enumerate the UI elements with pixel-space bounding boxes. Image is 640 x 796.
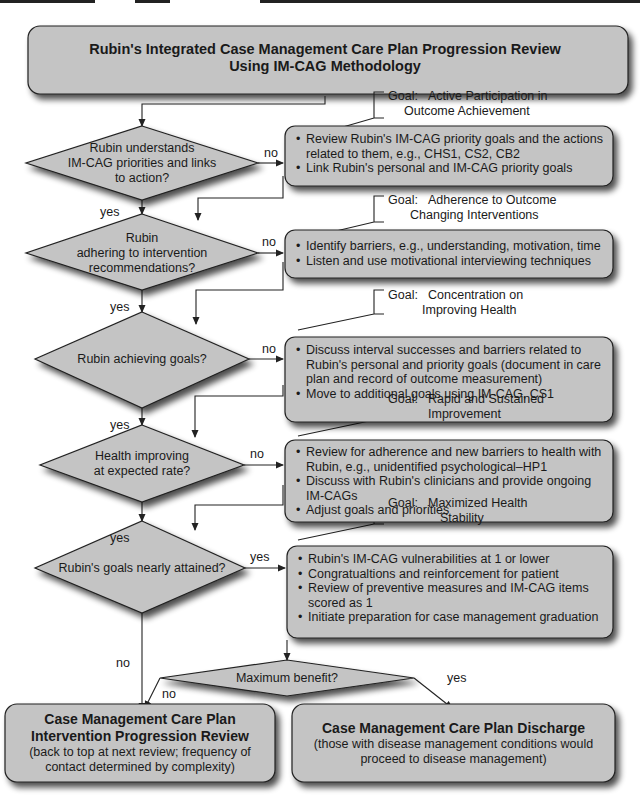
outcome-review: Case Management Care Plan Intervention P…: [5, 704, 275, 782]
outcome-heading: Case Management Care Plan: [5, 711, 275, 728]
goal-prefix: Goal:: [388, 89, 428, 104]
outcome-heading: Case Management Care Plan Discharge: [292, 720, 615, 737]
action-list-5: Rubin's IM-CAG vulnerabilities at 1 or l…: [298, 552, 606, 625]
action-item: Link Rubin's personal and IM-CAG priorit…: [296, 161, 606, 176]
decision-line: Rubin understands: [90, 141, 195, 156]
action-item: Review for adherence and new barriers to…: [296, 445, 606, 474]
action-item: Discuss with Rubin's clinicians and prov…: [296, 474, 606, 503]
goal-line: Changing Interventions: [388, 208, 557, 223]
branch-label-yes-1: yes: [100, 205, 119, 219]
action-item: Listen and use motivational interviewing…: [296, 254, 606, 269]
branch-label-no-5: no: [116, 656, 130, 670]
goal-label-3: Goal:Concentration on Improving Health: [388, 288, 523, 318]
branch-label-yes-2: yes: [110, 300, 129, 314]
goal-prefix: Goal:: [388, 288, 428, 303]
goal-line: Adherence to Outcome: [428, 193, 557, 208]
branch-label-yes-3: yes: [110, 418, 129, 432]
goal-line: Concentration on: [428, 288, 523, 303]
action-list-4: Review for adherence and new barriers to…: [296, 445, 606, 518]
goal-label-1: Goal:Active Participation in Outcome Ach…: [388, 89, 548, 119]
goal-line: Active Participation in: [428, 89, 548, 104]
decision-line: Maximum benefit?: [236, 671, 338, 686]
action-list-2: Identify barriers, e.g., understanding, …: [296, 239, 606, 268]
decision-line: adhering to intervention: [77, 246, 208, 261]
decision-line: IM-CAG priorities and links: [68, 156, 217, 171]
decision-line: to action?: [115, 171, 169, 186]
branch-label-no-1: no: [264, 146, 278, 160]
page-title: Rubin's Integrated Case Management Care …: [40, 30, 610, 86]
outcome-heading: Intervention Progression Review: [5, 728, 275, 745]
decision-line: recommendations?: [89, 261, 195, 276]
decision-text-1: Rubin understands IM-CAG priorities and …: [50, 130, 234, 196]
branch-label-max-no: no: [162, 687, 176, 701]
branch-label-no-2: no: [262, 235, 276, 249]
action-item: Identify barriers, e.g., understanding, …: [296, 239, 606, 254]
branch-label-yes-4: yes: [110, 531, 129, 545]
branch-label-yes-5: yes: [250, 550, 269, 564]
goal-line: Improving Health: [388, 303, 523, 318]
decision-text-2: Rubin adhering to intervention recommend…: [50, 218, 234, 288]
goal-line: Improvement: [388, 407, 544, 422]
branch-label-no-3: no: [262, 342, 276, 356]
action-item: Adjust goals and priorities: [296, 503, 606, 518]
branch-label-max-yes: yes: [447, 671, 466, 685]
action-item: Rubin's IM-CAG vulnerabilities at 1 or l…: [298, 552, 606, 567]
outcome-subtext: contact determined by complexity): [5, 760, 275, 775]
outcome-subtext: proceed to disease management): [292, 752, 615, 767]
decision-text-4: Health improving at expected rate?: [60, 446, 224, 482]
decision-line: Rubin's goals nearly attained?: [58, 561, 225, 576]
action-item: Review of preventive measures and IM-CAG…: [298, 581, 606, 610]
outcome-subtext: (those with disease management condition…: [292, 737, 615, 752]
decision-text-max-benefit: Maximum benefit?: [200, 668, 374, 688]
action-list-1: Review Rubin's IM-CAG priority goals and…: [296, 132, 606, 176]
action-item: Congratualtions and reinforcement for pa…: [298, 567, 606, 582]
goal-prefix: Goal:: [388, 193, 428, 208]
branch-label-no-4: no: [250, 447, 264, 461]
goal-line: Outcome Achievement: [388, 104, 548, 119]
action-item: Review Rubin's IM-CAG priority goals and…: [296, 132, 606, 161]
outcome-subtext: (back to top at next review; frequency o…: [5, 745, 275, 760]
decision-line: Rubin achieving goals?: [77, 352, 206, 367]
action-item: Initiate preparation for case management…: [298, 610, 606, 625]
title-line-1: Rubin's Integrated Case Management Care …: [89, 41, 561, 58]
decision-line: at expected rate?: [94, 464, 191, 479]
decision-line: Rubin: [126, 231, 159, 246]
action-item: Discuss interval successes and barriers …: [296, 343, 606, 387]
decision-line: Health improving: [95, 449, 189, 464]
outcome-discharge: Case Management Care Plan Discharge (tho…: [292, 704, 615, 782]
goal-label-2: Goal:Adherence to Outcome Changing Inter…: [388, 193, 557, 223]
action-list-3: Discuss interval successes and barriers …: [296, 343, 606, 401]
decision-text-3: Rubin achieving goals?: [55, 345, 229, 373]
decision-text-5: Rubin's goals nearly attained?: [50, 555, 234, 581]
action-item: Move to additional goals using IM-CAG, C…: [296, 387, 606, 402]
title-line-2: Using IM-CAG Methodology: [229, 58, 421, 75]
